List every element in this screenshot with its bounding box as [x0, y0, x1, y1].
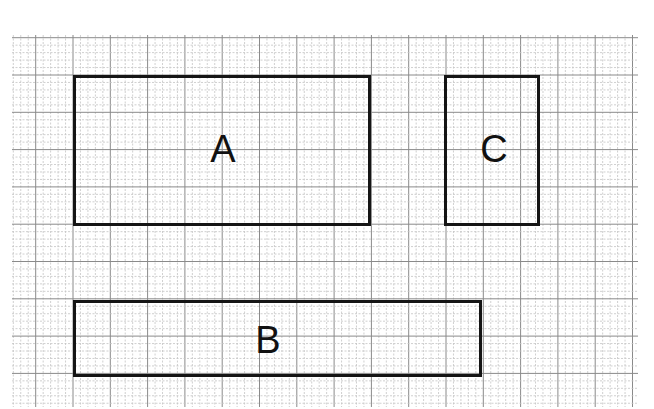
label-c: C [480, 130, 507, 168]
label-b: B [255, 321, 280, 359]
label-a: A [210, 130, 235, 168]
